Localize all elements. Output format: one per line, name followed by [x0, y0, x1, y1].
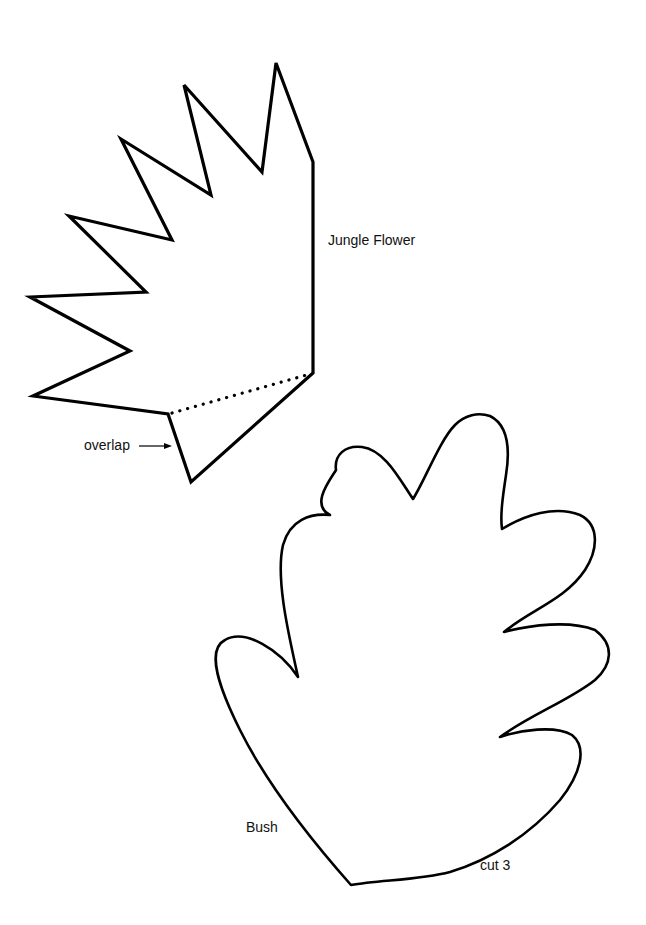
jungle-flower-outline — [30, 63, 313, 482]
arrow-right-icon — [139, 443, 172, 449]
bush-label: Bush — [246, 820, 278, 834]
bush-outline — [216, 414, 609, 885]
cutout-template-drawing — [0, 0, 646, 925]
template-page: Jungle Flower overlap Bush cut 3 — [0, 0, 646, 925]
cut-count-label: cut 3 — [480, 858, 510, 872]
jungle-flower-label: Jungle Flower — [328, 233, 415, 247]
overlap-label: overlap — [84, 438, 130, 452]
